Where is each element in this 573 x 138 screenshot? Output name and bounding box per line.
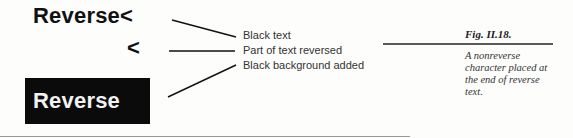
caption-line: character placed at (465, 62, 570, 74)
caption-line: text. (465, 86, 570, 98)
figure-caption: A nonreverse character placed at the end… (465, 50, 570, 98)
label-black-text: Black text (243, 28, 291, 42)
caption-line: A nonreverse (465, 50, 570, 62)
leader-line-black-background (168, 65, 236, 97)
caption-line: the end of reverse (465, 74, 570, 86)
label-part-of-text-reversed: Part of text reversed (243, 43, 342, 57)
figure-number: Fig. II.18. (465, 27, 511, 41)
label-black-background-added: Black background added (243, 58, 364, 72)
leader-line-black-text (172, 20, 236, 37)
